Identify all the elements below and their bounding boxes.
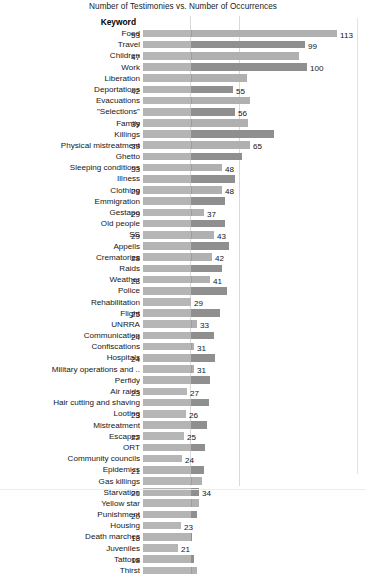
bar-row: Food53113 xyxy=(0,28,366,39)
bar[interactable] xyxy=(143,153,242,161)
category-label: Physical mistreatment xyxy=(2,140,140,151)
bar[interactable]: 31 xyxy=(143,343,194,351)
bar-track xyxy=(143,442,343,453)
bar[interactable] xyxy=(143,477,202,485)
bar[interactable] xyxy=(143,444,205,452)
bar[interactable]: 21 xyxy=(143,466,204,474)
bar-row: Family39 xyxy=(0,118,366,129)
bar-row: Weather2841 xyxy=(0,274,366,285)
category-label: Military operations and .. xyxy=(2,364,140,375)
bar-track xyxy=(143,498,343,509)
bar-row: Rehabilitation29 xyxy=(0,297,366,308)
bar-track: 25 xyxy=(143,308,343,319)
bar[interactable] xyxy=(143,421,207,429)
bar[interactable] xyxy=(143,220,225,228)
bar-track xyxy=(143,73,343,84)
bar[interactable]: 2841 xyxy=(143,276,210,284)
bar-row: Community councils24 xyxy=(0,453,366,464)
category-label: "Selections" xyxy=(2,106,140,117)
plot-right-edge xyxy=(357,18,358,474)
bar-track xyxy=(143,420,343,431)
bar[interactable]: 2225 xyxy=(143,432,184,440)
category-label: Evacuations xyxy=(2,95,140,106)
category-label: Ghetto xyxy=(2,151,140,162)
bar-track: 20 xyxy=(143,509,343,520)
bar[interactable]: 29 xyxy=(143,298,191,306)
category-label: Appells xyxy=(2,241,140,252)
bar[interactable]: 3348 xyxy=(143,164,222,172)
bar[interactable]: 23 xyxy=(143,522,181,530)
bar[interactable]: 47 xyxy=(143,52,299,60)
bar[interactable]: 25 xyxy=(143,309,220,317)
bar[interactable]: 31 xyxy=(143,365,194,373)
bar[interactable]: 18 xyxy=(143,555,194,563)
bar-track xyxy=(143,565,343,576)
bar[interactable] xyxy=(143,567,197,575)
category-label: Deportations xyxy=(2,84,140,95)
bar-track: 21 xyxy=(143,543,343,554)
bar[interactable]: 18 xyxy=(143,533,192,541)
bar-row: Epidemics21 xyxy=(0,464,366,475)
bar[interactable]: 24 xyxy=(143,455,182,463)
bar-row: Yellow star xyxy=(0,498,366,509)
bar[interactable]: 39 xyxy=(143,119,248,127)
bar[interactable]: 2948 xyxy=(143,186,222,194)
bar[interactable]: 53113 xyxy=(143,30,337,38)
bar-row: Looting2326 xyxy=(0,408,366,419)
bar-row: Old people xyxy=(0,218,366,229)
bar[interactable] xyxy=(143,265,222,273)
bar[interactable]: 2937 xyxy=(143,209,204,217)
bar[interactable] xyxy=(143,130,274,138)
category-label: Looting xyxy=(2,408,140,419)
bar[interactable] xyxy=(143,242,229,250)
category-label: Gestapo xyxy=(2,207,140,218)
bar[interactable]: 20 xyxy=(143,511,197,519)
bar-track xyxy=(143,151,343,162)
bar[interactable]: 56 xyxy=(143,108,235,116)
bar[interactable]: 99 xyxy=(143,41,305,49)
category-label: Perfidy xyxy=(2,375,140,386)
category-label: Family xyxy=(2,118,140,129)
category-label: SS xyxy=(2,229,140,240)
bar-track: 29 xyxy=(143,297,343,308)
bar[interactable] xyxy=(143,376,210,384)
bar-track: 39 xyxy=(143,118,343,129)
category-label: Air raids xyxy=(2,386,140,397)
bar-track xyxy=(143,476,343,487)
bar[interactable]: 24 xyxy=(143,332,214,340)
bar-track xyxy=(143,173,343,184)
category-label: Communication xyxy=(2,330,140,341)
bar[interactable] xyxy=(143,399,209,407)
bar[interactable] xyxy=(143,197,225,205)
bar[interactable]: 4255 xyxy=(143,86,233,94)
bar[interactable]: 33 xyxy=(143,320,197,328)
bar[interactable]: 2326 xyxy=(143,410,186,418)
bar[interactable]: 2842 xyxy=(143,253,212,261)
bar[interactable]: 2327 xyxy=(143,388,187,396)
bar-row: Illness xyxy=(0,173,366,184)
category-label: Punishment xyxy=(2,509,140,520)
bar[interactable] xyxy=(143,175,235,183)
bar-row: Mistreatment xyxy=(0,420,366,431)
bar[interactable] xyxy=(143,74,247,82)
bar[interactable]: 100 xyxy=(143,63,307,71)
bar[interactable]: 3965 xyxy=(143,141,250,149)
bar-track: 2225 xyxy=(143,431,343,442)
keyword-column-header: Keyword xyxy=(0,16,140,28)
bar[interactable] xyxy=(143,499,199,507)
bar[interactable]: 24 xyxy=(143,354,215,362)
bar[interactable] xyxy=(143,97,250,105)
category-label: Juveniles xyxy=(2,543,140,554)
bar-track: 31 xyxy=(143,341,343,352)
bar-row: Travel99 xyxy=(0,39,366,50)
chart-title: Number of Testimonies vs. Number of Occu… xyxy=(0,2,366,11)
bar-row: Hair cutting and shaving xyxy=(0,397,366,408)
category-label: Clothing xyxy=(2,185,140,196)
bar[interactable]: 2943 xyxy=(143,231,214,239)
bar[interactable] xyxy=(143,287,227,295)
category-label: Children xyxy=(2,50,140,61)
bar-track: 100 xyxy=(143,62,343,73)
bar[interactable]: 21 xyxy=(143,544,178,552)
bar-row: Death marches18 xyxy=(0,531,366,542)
